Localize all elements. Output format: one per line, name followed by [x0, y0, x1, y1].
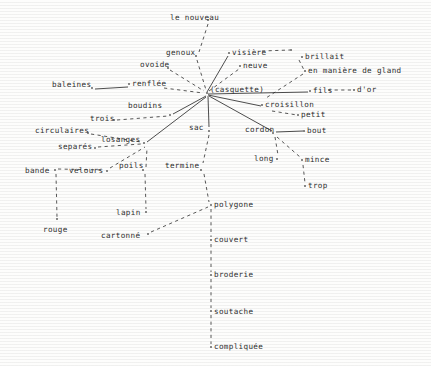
node-label-long[interactable]: long: [254, 155, 274, 163]
node-label-bande[interactable]: bande: [25, 167, 50, 175]
edge-mince-to-trop: [303, 165, 305, 183]
node-label-compliquee[interactable]: compliquée: [214, 343, 263, 351]
node-label-boudins[interactable]: boudins: [128, 102, 162, 110]
node-label-separes[interactable]: separés: [58, 143, 92, 151]
edge-cordon-to-long: [275, 137, 278, 155]
edge-brillait-to-gland: [299, 60, 304, 70]
node-label-le_nouveau[interactable]: le nouveau: [170, 14, 219, 22]
node-label-croisillon[interactable]: croisillon: [265, 101, 314, 109]
node-label-cordon[interactable]: cordon: [245, 126, 275, 134]
edge-casquette-to-sac: [208, 96, 209, 127]
edge-cordon-to-bout: [276, 131, 303, 132]
node-label-polygone[interactable]: polygone: [214, 201, 253, 209]
edge-le_nouveau-to-genoux: [199, 24, 208, 52]
node-label-lapin[interactable]: lapin: [116, 209, 141, 217]
edge-separes-to-losanges: [98, 144, 141, 147]
node-label-bout[interactable]: bout: [307, 127, 327, 135]
node-label-soutache[interactable]: soutache: [214, 308, 253, 316]
edge-cordon-to-mince: [277, 137, 300, 157]
edge-termine-to-polygone: [204, 174, 209, 202]
node-label-baleines[interactable]: baleines: [52, 81, 91, 89]
node-label-gland[interactable]: en manière de gland: [308, 67, 402, 75]
edge-renflee-to-casquette: [164, 88, 203, 93]
node-label-dor[interactable]: d'or: [357, 86, 377, 94]
node-label-couvert[interactable]: couvert: [214, 236, 248, 244]
edge-cartonne-to-polygone: [151, 207, 208, 232]
node-label-genoux[interactable]: genoux: [166, 49, 196, 57]
node-label-circulaires[interactable]: circulaires: [35, 127, 89, 135]
edge-gland-to-casquette: [266, 74, 303, 98]
edge-ovoide-to-casquette: [170, 70, 204, 91]
node-label-cartonne[interactable]: cartonné: [101, 232, 140, 240]
node-label-brillait[interactable]: brillait: [305, 53, 344, 61]
node-label-velours[interactable]: velours: [69, 167, 103, 175]
node-label-petit[interactable]: petit: [301, 111, 326, 119]
node-label-trois[interactable]: trois: [90, 115, 115, 123]
node-label-neuve[interactable]: neuve: [243, 62, 268, 70]
edge-poils-to-lapin: [145, 174, 146, 209]
edge-sac-to-termine: [203, 135, 209, 163]
edge-poils-to-losanges: [146, 148, 147, 167]
edge-baleines-to-renflee: [95, 87, 128, 89]
edge-croisillon-to-petit: [272, 111, 297, 115]
node-label-trop[interactable]: trop: [308, 182, 328, 190]
node-label-fils[interactable]: fils: [313, 87, 333, 95]
node-label-broderie[interactable]: broderie: [214, 271, 253, 279]
node-label-sac[interactable]: sac: [189, 124, 204, 132]
edge-bande-to-rouge: [56, 174, 57, 217]
edge-boudins-to-casquette: [173, 96, 206, 114]
node-label-mince[interactable]: mince: [305, 156, 330, 164]
node-label-ovoide[interactable]: ovoide: [140, 61, 170, 69]
node-label-visiere[interactable]: visière: [232, 49, 266, 57]
node-label-losanges[interactable]: losanges: [101, 136, 140, 144]
edge-genoux-to-casquette: [197, 60, 206, 90]
node-label-rouge[interactable]: rouge: [43, 226, 68, 234]
node-label-renflee[interactable]: renflée: [132, 80, 166, 88]
node-label-termine[interactable]: termine: [165, 162, 199, 170]
edge-trois-to-boudins: [117, 116, 168, 120]
node-label-poils[interactable]: poils: [119, 162, 144, 170]
node-label-casquette[interactable]: (casquette): [210, 86, 264, 94]
edge-casquette-to-croisillon: [208, 95, 261, 106]
